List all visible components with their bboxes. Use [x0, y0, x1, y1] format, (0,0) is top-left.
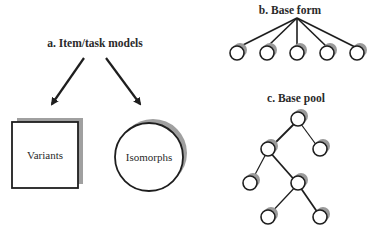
panel-a-item-task-models: a. Item/task models Variants Isomorphs [12, 37, 187, 191]
arrow-to-variants [52, 58, 84, 104]
diagram-canvas: a. Item/task models Variants Isomorphs b… [0, 0, 377, 228]
panel-b-title: b. Base form [259, 4, 322, 16]
panel-c-base-pool: c. Base pool [243, 92, 330, 224]
base-form-node [230, 43, 247, 60]
variants-square: Variants [12, 118, 83, 188]
base-form-node [260, 43, 277, 60]
tree-node [243, 173, 260, 190]
isomorphs-circle: Isomorphs [115, 119, 187, 191]
tree-node [261, 207, 278, 224]
tree-node-root [291, 109, 308, 126]
panel-c-title: c. Base pool [267, 92, 325, 105]
tree-node [313, 139, 330, 156]
base-form-node [290, 43, 307, 60]
arrow-to-isomorphs [106, 58, 140, 104]
tree-node [291, 173, 308, 190]
variants-label: Variants [27, 149, 63, 161]
isomorphs-label: Isomorphs [126, 151, 172, 163]
panel-b-base-form: b. Base form [230, 4, 367, 60]
base-pool-edges [250, 120, 320, 216]
base-form-edges [239, 18, 355, 47]
base-pool-nodes [243, 109, 330, 224]
base-form-nodes [230, 43, 367, 60]
tree-node [261, 139, 278, 156]
panel-a-title: a. Item/task models [47, 37, 143, 49]
base-form-node [320, 43, 337, 60]
